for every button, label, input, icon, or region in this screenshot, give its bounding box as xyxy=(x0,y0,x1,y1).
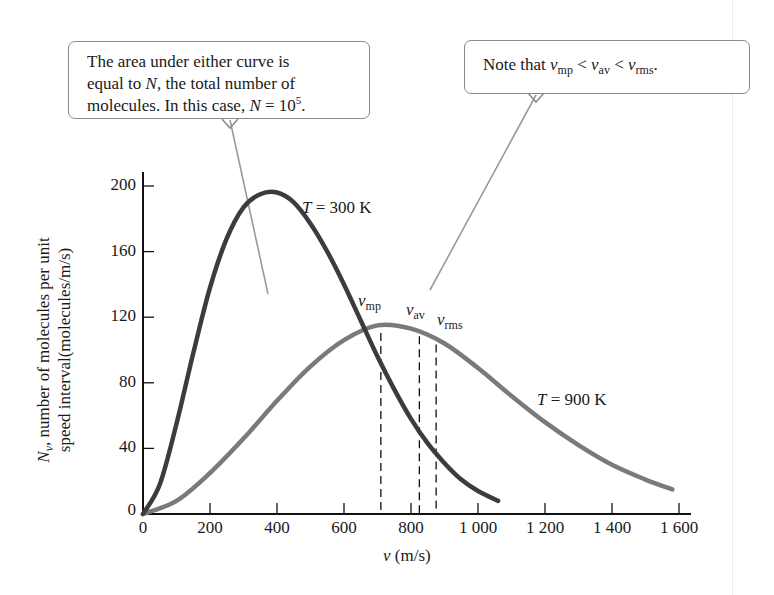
x-tick-label: 1 600 xyxy=(649,518,709,538)
callout-area-under-curve: The area under either curve is equal to … xyxy=(68,41,370,119)
c1-l2-var: N xyxy=(146,74,157,93)
note-v2: v xyxy=(591,55,599,74)
callout-pointer-note xyxy=(430,95,536,290)
note-end: . xyxy=(654,55,658,74)
x-axis-label: v (m/s) xyxy=(383,546,431,566)
c1-l3-var: N xyxy=(249,96,260,115)
y-axis-label: Nv, number of molecules per unit speed i… xyxy=(33,237,75,462)
callout-speed-order-note: Note that vmp < vav < vrms. xyxy=(464,40,750,94)
note-lt1: < xyxy=(573,55,591,74)
vav-label: vav xyxy=(406,300,425,320)
note-v1: v xyxy=(550,55,558,74)
xlabel-var: v xyxy=(383,546,391,565)
y-tick-label: 120 xyxy=(96,306,136,326)
note-v3: v xyxy=(628,55,636,74)
curve-300k xyxy=(143,192,498,514)
x-tick-label: 600 xyxy=(314,518,374,538)
c1-l2-pre: equal to xyxy=(87,74,146,93)
curves xyxy=(143,192,672,514)
x-tick-label: 800 xyxy=(381,518,441,538)
y-tick-label: 40 xyxy=(96,437,136,457)
vrms-label: vrms xyxy=(437,310,463,330)
curve-label-300k: T = 300 K xyxy=(302,198,372,218)
c1-l3-pre: molecules. In this case, xyxy=(87,96,249,115)
xlabel-unit: (m/s) xyxy=(391,546,431,565)
x-tick-label: 1 000 xyxy=(448,518,508,538)
y-tick-label: 80 xyxy=(96,372,136,392)
t900-rest: = 900 K xyxy=(546,390,606,409)
vav-sub: av xyxy=(414,308,425,322)
note-av: av xyxy=(599,63,610,77)
c1-l3-end: . xyxy=(301,96,305,115)
callout-area-line2: equal to N, the total number of xyxy=(87,73,369,95)
t300-rest: = 300 K xyxy=(311,198,371,217)
callout-tail-note xyxy=(528,93,544,102)
x-tick-label: 0 xyxy=(113,518,173,538)
y-tick-label: 0 xyxy=(96,500,136,520)
vrms-v: v xyxy=(437,310,445,329)
c1-l3-eq: = 10 xyxy=(261,96,296,115)
vav-v: v xyxy=(406,300,414,319)
reference-lines xyxy=(381,333,436,514)
x-tick-label: 400 xyxy=(247,518,307,538)
callout-area-line3: molecules. In this case, N = 105. xyxy=(87,95,369,117)
c1-l2-post: , the total number of xyxy=(157,74,295,93)
vmp-label: vmp xyxy=(358,291,381,311)
vmp-v: v xyxy=(358,291,366,310)
y-tick-label: 200 xyxy=(96,175,136,195)
callout-pointer-area xyxy=(230,120,268,294)
vrms-sub: rms xyxy=(445,318,463,332)
note-mp: mp xyxy=(558,63,573,77)
ylabel-line1: , number of molecules per unit xyxy=(34,237,53,446)
vmp-sub: mp xyxy=(366,299,381,313)
curve-900k xyxy=(143,325,672,514)
x-tick-label: 1 200 xyxy=(515,518,575,538)
note-pre: Note that xyxy=(483,55,550,74)
x-tick-label: 1 400 xyxy=(582,518,642,538)
ylabel-var: N xyxy=(34,451,53,462)
y-tick-label: 160 xyxy=(96,241,136,261)
ylabel-line2: speed interval(molecules/m/s) xyxy=(54,237,75,462)
note-lt2: < xyxy=(610,55,628,74)
callout-area-line1: The area under either curve is xyxy=(87,51,369,73)
x-tick-label: 200 xyxy=(180,518,240,538)
note-rms: rms xyxy=(636,63,654,77)
curve-label-900k: T = 900 K xyxy=(537,390,607,410)
